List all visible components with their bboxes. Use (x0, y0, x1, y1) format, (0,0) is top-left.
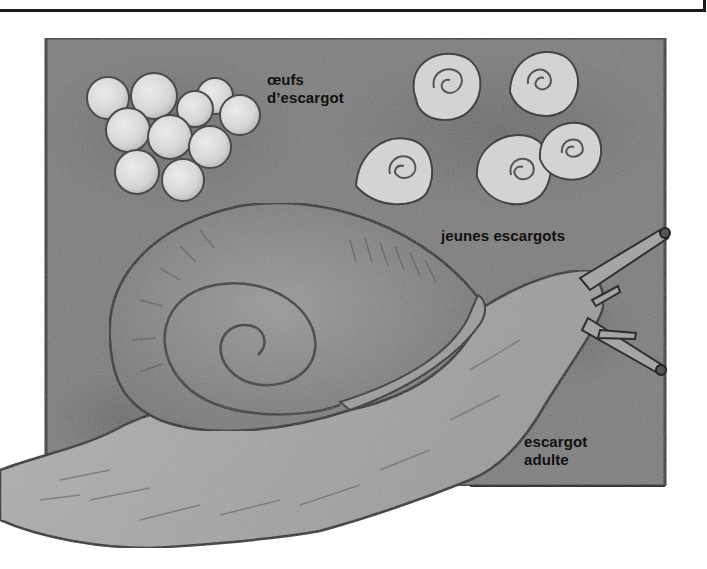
label-eggs: œufs d’escargot (267, 71, 344, 107)
label-eggs-line1: œufs (267, 71, 344, 89)
label-adult: escargot adulte (524, 433, 587, 469)
label-adult-line2: adulte (524, 451, 587, 469)
label-juveniles: jeunes escargots (441, 227, 565, 245)
label-eggs-line2: d’escargot (267, 89, 344, 107)
label-adult-line1: escargot (524, 433, 587, 451)
snail-illustration (0, 0, 707, 569)
label-juveniles-line1: jeunes escargots (441, 227, 565, 245)
